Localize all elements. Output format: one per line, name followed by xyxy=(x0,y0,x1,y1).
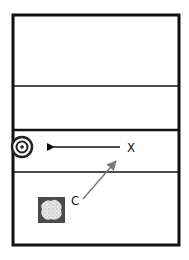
target-icon xyxy=(12,137,32,157)
player-x-label: X xyxy=(127,140,135,155)
movement-arrow xyxy=(83,161,116,199)
player-c-label: C xyxy=(71,193,79,208)
cone-icon xyxy=(38,197,65,223)
drill-diagram: X C xyxy=(0,0,189,260)
